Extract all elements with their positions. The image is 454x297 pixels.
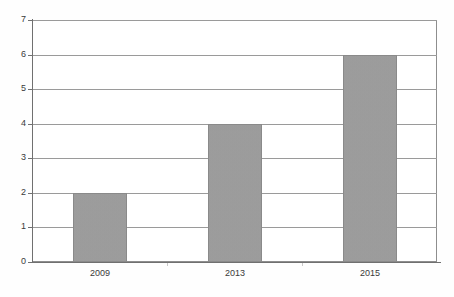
y-tick-label: 6 xyxy=(4,50,26,59)
y-tick-5: 5 xyxy=(0,84,26,93)
x-tick-mark-1 xyxy=(167,263,168,266)
y-tick-3: 3 xyxy=(0,153,26,162)
x-tick-label-2013: 2013 xyxy=(205,268,265,278)
y-tick-4: 4 xyxy=(0,119,26,128)
x-tick-label-2015: 2015 xyxy=(340,268,400,278)
y-tick-label: 0 xyxy=(4,257,26,266)
y-tick-label: 3 xyxy=(4,153,26,162)
y-tick-0: 0 xyxy=(0,257,26,266)
y-tick-7: 7 xyxy=(0,15,26,24)
bar-chart: 01234567 200920132015 xyxy=(0,0,454,297)
bar-2013 xyxy=(208,124,262,262)
bar-2009 xyxy=(73,193,127,262)
y-tick-label: 1 xyxy=(4,222,26,231)
y-tick-6: 6 xyxy=(0,50,26,59)
x-tick-mark-2 xyxy=(302,263,303,266)
y-tick-label: 5 xyxy=(4,84,26,93)
y-tick-label: 2 xyxy=(4,188,26,197)
y-tick-label: 4 xyxy=(4,119,26,128)
x-tick-label-2009: 2009 xyxy=(70,268,130,278)
y-tick-1: 1 xyxy=(0,222,26,231)
x-axis-line xyxy=(31,262,441,263)
y-tick-2: 2 xyxy=(0,188,26,197)
bar-2015 xyxy=(343,55,397,262)
bar-series xyxy=(32,20,437,262)
y-tick-label: 7 xyxy=(4,15,26,24)
